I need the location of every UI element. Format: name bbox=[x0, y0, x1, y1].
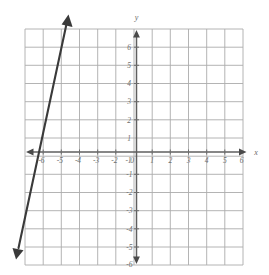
y-tick-label--5: -5 bbox=[126, 243, 132, 252]
x-tick-label-2: 2 bbox=[168, 156, 172, 165]
x-tick-label--6: -6 bbox=[38, 156, 44, 165]
x-tick-label-3: 3 bbox=[186, 156, 191, 165]
plotted-line bbox=[13, 15, 73, 260]
y-tick-label-3: 3 bbox=[126, 97, 131, 106]
coordinate-graph-figure: -6 -5 -4 -3 -2 -1 0 1 2 3 4 5 6 6 5 4 3 … bbox=[0, 0, 269, 275]
y-tick-label--3: -3 bbox=[126, 206, 132, 215]
y-tick-label-2: 2 bbox=[127, 116, 131, 125]
x-tick-label-4: 4 bbox=[205, 156, 209, 165]
coordinate-plane: -6 -5 -4 -3 -2 -1 0 1 2 3 4 5 6 6 5 4 3 … bbox=[0, 0, 269, 275]
x-tick-label--2: -2 bbox=[111, 156, 117, 165]
x-tick-label--4: -4 bbox=[75, 156, 81, 165]
y-tick-label--4: -4 bbox=[126, 225, 132, 234]
x-tick-label-5: 5 bbox=[223, 156, 227, 165]
y-tick-label--1: -1 bbox=[126, 170, 132, 179]
x-tick-label-6: 6 bbox=[240, 156, 244, 165]
origin-label: 0 bbox=[130, 156, 134, 165]
y-tick-label-6: 6 bbox=[127, 43, 131, 52]
x-axis-label: x bbox=[253, 148, 258, 157]
y-tick-label--2: -2 bbox=[126, 188, 132, 197]
line-segment bbox=[19, 24, 67, 248]
x-tick-label--5: -5 bbox=[57, 156, 63, 165]
y-tick-label-5: 5 bbox=[127, 61, 131, 70]
line-top-arrowhead bbox=[62, 15, 73, 27]
x-axis-left-arrowhead bbox=[26, 149, 34, 156]
y-tick-label--6: -6 bbox=[126, 260, 132, 269]
y-tick-label-1: 1 bbox=[127, 134, 131, 143]
x-tick-label-1: 1 bbox=[150, 156, 154, 165]
y-tick-label-4: 4 bbox=[127, 79, 131, 88]
x-tick-label--3: -3 bbox=[93, 156, 99, 165]
y-axis-label: y bbox=[134, 13, 139, 22]
line-bottom-arrowhead bbox=[13, 248, 24, 260]
